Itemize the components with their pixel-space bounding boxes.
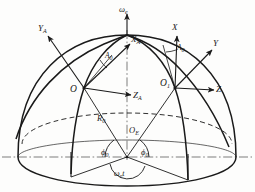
meridian-left-curve [71,35,127,174]
label-Y: Y [213,38,219,48]
diagram-canvas: ωe YA XA X Y Z ZA A0 A0 O O1 OE R0 ϕ0 ϕ0… [0,0,255,192]
point-O1 [173,86,176,89]
label-X: X [171,22,178,32]
axis-Z [175,88,214,90]
label-YA: YA [38,23,47,34]
radius-line-to-O [84,88,127,157]
point-OE [126,156,129,159]
base-ellipse-front [18,157,236,186]
A0-right-arc [166,50,176,52]
label-OE: OE [129,125,139,136]
label-O1: O1 [160,78,170,89]
axis-ZA [84,88,131,95]
label-A0-right: A0 [176,43,185,53]
label-ZA: ZA [133,90,142,101]
label-A0-left: A0 [104,51,113,61]
label-omega-e: ωe [119,4,128,15]
label-R0: R0 [96,113,105,124]
label-O: O [70,84,77,94]
point-O [82,86,85,89]
label-omega-e-t: ωet [114,169,125,179]
meridian-right-curve [127,35,188,180]
hemisphere-diagram: ωe YA XA X Y Z ZA A0 A0 O O1 OE R0 ϕ0 ϕ0… [0,0,255,192]
A0-left-arc [100,60,107,68]
